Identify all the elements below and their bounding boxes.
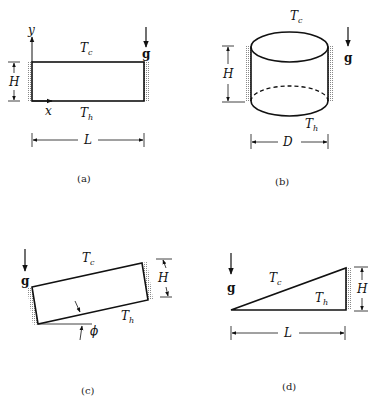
gravity-label: g — [21, 274, 30, 288]
caption-a: (a) — [77, 173, 91, 184]
hot-temp-label: Th — [121, 309, 134, 325]
insulated-wall-right — [328, 46, 334, 102]
panel-c: ϕ Tc Th g H (c) — [21, 249, 172, 396]
height-label: H — [8, 75, 20, 89]
diameter-label: D — [282, 135, 293, 149]
cylinder-top — [251, 32, 328, 62]
height-dim-arrow-icon — [163, 260, 166, 268]
insulated-wall-right — [144, 62, 150, 101]
panel-b: Tc Th g H D (b) — [222, 9, 353, 187]
gravity-label: g — [142, 47, 151, 61]
y-axis-label: y — [27, 23, 35, 37]
caption-b: (b) — [275, 176, 289, 187]
caption-c: (c) — [81, 385, 95, 396]
cold-temp-label: Tc — [269, 271, 282, 287]
cylinder-bottom-front — [251, 101, 328, 116]
hot-temp-label: Th — [315, 291, 328, 307]
height-label: H — [222, 67, 234, 81]
tilted-enclosure — [32, 263, 148, 324]
cold-temp-label: Tc — [290, 9, 303, 25]
panel-a: y x Tc Th g H L (a) — [8, 23, 151, 184]
length-label: L — [83, 133, 92, 147]
length-label: L — [283, 326, 292, 340]
angle-label: ϕ — [90, 324, 98, 338]
cold-temp-label: Tc — [82, 251, 95, 267]
cold-temp-label: Tc — [80, 41, 93, 57]
height-label: H — [157, 271, 169, 285]
x-axis-label: x — [45, 104, 52, 118]
gravity-label: g — [344, 51, 353, 65]
insulated-wall-left — [245, 46, 251, 102]
triangular-enclosure — [231, 268, 346, 310]
cylinder-bottom-back — [251, 86, 328, 101]
caption-d: (d) — [282, 381, 296, 392]
gravity-label: g — [227, 281, 236, 295]
angle-arrow-icon — [75, 301, 80, 312]
hot-temp-label: Th — [80, 106, 93, 122]
hot-temp-label: Th — [305, 117, 318, 133]
diagram-canvas: y x Tc Th g H L (a) Tc Th g H — [0, 0, 378, 406]
panel-d: Tc Th g H L (d) — [227, 253, 368, 392]
rectangular-enclosure — [32, 62, 144, 101]
height-label: H — [356, 282, 368, 296]
